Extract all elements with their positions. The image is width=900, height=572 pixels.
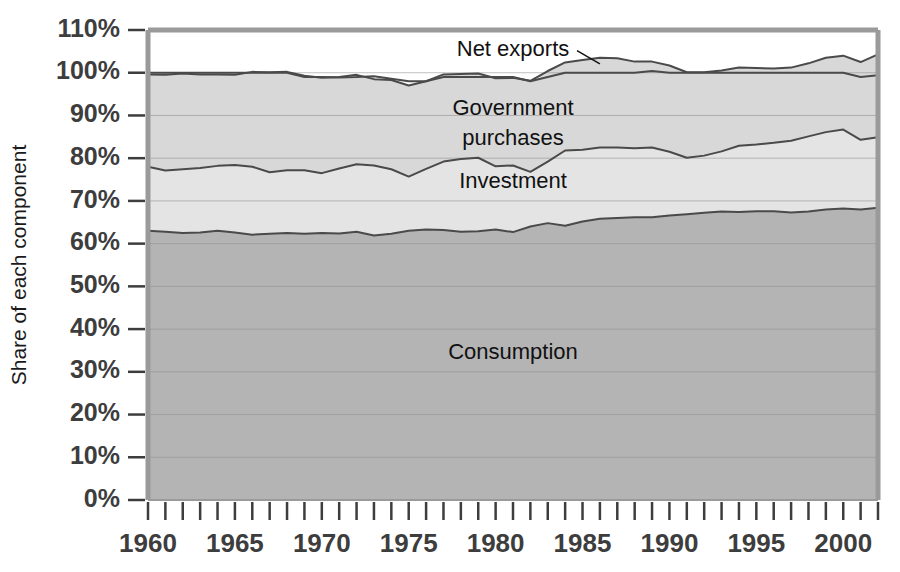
x-axis-tick-labels: 196019651970197519801985199019952000 <box>119 528 872 558</box>
y-tick-label: 50% <box>70 270 120 298</box>
y-tick-label: 30% <box>70 355 120 383</box>
y-tick-label: 60% <box>70 227 120 255</box>
y-axis-title: Share of each component <box>7 145 30 386</box>
government-purchases-label-line1: Government <box>452 95 573 120</box>
y-tick-label: 100% <box>56 56 120 84</box>
chart-container: 0%10%20%30%40%50%60%70%80%90%100%110% 19… <box>0 0 900 572</box>
x-tick-label: 2000 <box>814 528 872 558</box>
y-tick-label: 40% <box>70 313 120 341</box>
y-tick-label: 20% <box>70 398 120 426</box>
x-tick-label: 1960 <box>119 528 177 558</box>
area-bands <box>148 54 878 500</box>
x-tick-label: 1965 <box>206 528 264 558</box>
government-purchases-label-line2: purchases <box>462 125 564 150</box>
x-tick-label: 1990 <box>641 528 699 558</box>
x-tick-label: 1980 <box>467 528 525 558</box>
y-tick-label: 10% <box>70 441 120 469</box>
consumption-label: Consumption <box>448 339 578 364</box>
y-tick-label: 70% <box>70 185 120 213</box>
stacked-area-chart: 0%10%20%30%40%50%60%70%80%90%100%110% 19… <box>0 0 900 572</box>
x-tick-label: 1985 <box>554 528 612 558</box>
x-tick-label: 1995 <box>727 528 785 558</box>
y-tick-label: 0% <box>84 484 120 512</box>
net-exports-label: Net exports <box>457 36 570 61</box>
y-tick-label: 110% <box>57 14 120 42</box>
x-tick-label: 1970 <box>293 528 351 558</box>
x-tick-label: 1975 <box>380 528 438 558</box>
investment-label: Investment <box>459 168 567 193</box>
y-tick-label: 90% <box>70 99 120 127</box>
y-tick-label: 80% <box>70 142 120 170</box>
